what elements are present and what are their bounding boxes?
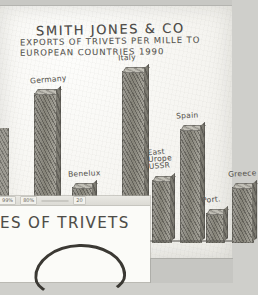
bar-label-east-europe-ussr: East Urope USSR [147, 147, 175, 170]
bar-side-face [252, 180, 257, 242]
toolbar-chip-3[interactable]: 20 [73, 196, 85, 205]
bar-label-spain: Spain [176, 110, 199, 120]
bar-greece [232, 187, 254, 243]
toolbar-chip-0[interactable]: 99% [0, 196, 16, 205]
arch-doodle-icon [33, 242, 127, 295]
bar-portugal [206, 213, 225, 243]
bar-label-greece: Greece [228, 168, 257, 178]
bar-label-benelux: Benelux [68, 168, 101, 179]
overlay-window[interactable]: 99% 80% 20 ES OF TRIVETS [0, 196, 150, 282]
overlay-heading: ES OF TRIVETS [0, 214, 130, 232]
toolbar-chip-1[interactable]: 80% [20, 196, 37, 205]
overlay-toolbar[interactable]: 99% 80% 20 [0, 196, 150, 206]
bottom-right-panel [150, 258, 233, 283]
bar-east-europe-ussr [152, 180, 172, 243]
bar-side-face [170, 173, 175, 242]
chart-subtitle-line-1: EXPORTS OF TRIVETS PER MILLE TO [20, 35, 200, 48]
chart-subtitle-line-2: EUROPEAN COUNTRIES 1990 [20, 46, 164, 58]
bar-side-face [223, 206, 228, 242]
bar-label-italy: Italy [118, 53, 136, 63]
bar-label-germany: Germany [30, 73, 67, 85]
toolbar-chip-2[interactable] [41, 200, 69, 202]
bar-label-portugal: Port. [202, 194, 221, 205]
bar-side-face [200, 122, 205, 242]
bar-spain [180, 129, 202, 243]
